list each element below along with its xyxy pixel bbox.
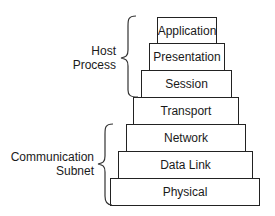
host-brace-icon xyxy=(121,16,138,97)
host-process-label: Host Process xyxy=(60,44,116,72)
label-line: Subnet xyxy=(4,164,94,178)
subnet-brace-icon xyxy=(98,124,113,205)
label-line: Communication xyxy=(4,150,94,164)
label-line: Process xyxy=(60,58,116,72)
label-line: Host xyxy=(60,44,116,58)
communication-subnet-label: Communication Subnet xyxy=(4,150,94,178)
brackets xyxy=(0,0,275,216)
